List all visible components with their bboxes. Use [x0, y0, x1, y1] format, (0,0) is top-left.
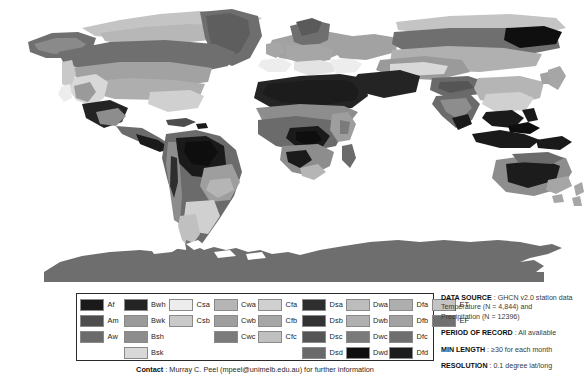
legend-label-dwd: Dwd: [373, 349, 388, 356]
contact-text: : Murray C. Peel (mpeel@unimelb.edu.au) …: [163, 365, 374, 374]
legend-label-dfa: Dfa: [417, 301, 429, 308]
legend-label-dsc: Dsc: [330, 333, 343, 340]
legend-swatch-dfc: [389, 331, 413, 343]
legend-swatch-dsa: [302, 299, 326, 311]
legend-swatch-dwd: [346, 347, 370, 359]
info-line: DATA SOURCE : GHCN v2.0 station data: [441, 294, 584, 303]
legend-label-cwc: Cwc: [241, 333, 256, 340]
legend-swatch-cfa: [258, 299, 282, 311]
legend-entry-csa[interactable]: Csa: [169, 297, 210, 313]
legend-column-continental-no-dry-season: DfaDfbDfcDfd: [389, 297, 428, 361]
legend-label-dsa: Dsa: [330, 301, 343, 308]
legend-entry-dfa[interactable]: Dfa: [389, 297, 428, 313]
legend-entry-cwb[interactable]: Cwb: [214, 313, 257, 329]
legend-swatch-csa: [169, 299, 193, 311]
legend-swatch-bwk: [124, 315, 148, 327]
legend-entry-cwc[interactable]: Cwc: [214, 329, 257, 345]
legend-label-dwc: Dwc: [373, 333, 388, 340]
legend-column-temperate-no-dry-season: CfaCfbCfc: [258, 297, 297, 345]
legend-label-bsh: Bsh: [151, 333, 164, 340]
legend-label-dsd: Dsd: [330, 349, 343, 356]
legend-entry-am[interactable]: Am: [80, 313, 119, 329]
legend-label-am: Am: [108, 317, 119, 324]
legend-entry-dwd[interactable]: Dwd: [346, 345, 389, 361]
legend-swatch-bsk: [124, 347, 148, 359]
world-map-panel: [0, 0, 584, 283]
legend-entry-dwa[interactable]: Dwa: [346, 297, 389, 313]
legend-entry-dsd[interactable]: Dsd: [302, 345, 343, 361]
info-block-min-length: MIN LENGTH : ≥30 for each month: [441, 346, 584, 355]
legend-label-dsb: Dsb: [330, 317, 343, 324]
legend-swatch-cfb: [258, 315, 282, 327]
metadata-info-panel: DATA SOURCE : GHCN v2.0 station dataTemp…: [441, 294, 584, 378]
legend-entry-bsk[interactable]: Bsk: [124, 345, 166, 361]
legend-entry-cwa[interactable]: Cwa: [214, 297, 257, 313]
legend-entry-cfc[interactable]: Cfc: [258, 329, 297, 345]
legend-entry-af[interactable]: Af: [80, 297, 119, 313]
legend-entry-cfb[interactable]: Cfb: [258, 313, 297, 329]
legend-column-temperate-dry-summer: CsaCsb: [169, 297, 210, 329]
legend-entry-cfa[interactable]: Cfa: [258, 297, 297, 313]
info-key: MIN LENGTH: [441, 346, 485, 354]
legend-entry-dfb[interactable]: Dfb: [389, 313, 428, 329]
legend-swatch-csb: [169, 315, 193, 327]
legend-label-cfc: Cfc: [286, 333, 297, 340]
info-key: DATA SOURCE: [441, 294, 492, 302]
legend-entry-dwc[interactable]: Dwc: [346, 329, 389, 345]
info-line: PERIOD OF RECORD : All available: [441, 329, 584, 338]
legend-label-dfb: Dfb: [417, 317, 429, 324]
legend-swatch-cfc: [258, 331, 282, 343]
legend-label-dwb: Dwb: [373, 317, 388, 324]
info-line: Precipitation (N = 12396): [441, 313, 584, 322]
legend-swatch-bsh: [124, 331, 148, 343]
info-block-period-of-record: PERIOD OF RECORD : All available: [441, 329, 584, 338]
legend-label-csb: Csb: [197, 317, 210, 324]
legend-swatch-am: [80, 315, 104, 327]
legend-swatch-dsc: [302, 331, 326, 343]
legend-label-cfb: Cfb: [286, 317, 298, 324]
legend-entry-bwk[interactable]: Bwk: [124, 313, 166, 329]
legend-column-temperate-dry-winter: CwaCwbCwc: [214, 297, 257, 345]
legend-swatch-dfb: [389, 315, 413, 327]
legend-entry-csb[interactable]: Csb: [169, 313, 210, 329]
info-key: PERIOD OF RECORD: [441, 329, 513, 337]
legend-swatch-cwa: [214, 299, 238, 311]
legend-swatch-dwb: [346, 315, 370, 327]
legend-entry-dfd[interactable]: Dfd: [389, 345, 428, 361]
legend-entry-dwb[interactable]: Dwb: [346, 313, 389, 329]
legend-label-bwk: Bwk: [151, 317, 165, 324]
legend-swatch-bwh: [124, 299, 148, 311]
legend-swatch-dfa: [389, 299, 413, 311]
legend-column-tropical: AfAmAw: [80, 297, 119, 345]
legend-swatch-dsb: [302, 315, 326, 327]
legend-entry-dfc[interactable]: Dfc: [389, 329, 428, 345]
legend-column-continental-dry-summer: DsaDsbDscDsd: [302, 297, 343, 361]
legend-entry-dsa[interactable]: Dsa: [302, 297, 343, 313]
legend-entry-aw[interactable]: Aw: [80, 329, 119, 345]
legend-column-continental-dry-winter: DwaDwbDwcDwd: [346, 297, 389, 361]
legend-label-aw: Aw: [108, 333, 118, 340]
world-map-svg: [0, 0, 584, 283]
legend-swatch-aw: [80, 331, 104, 343]
legend-entry-dsc[interactable]: Dsc: [302, 329, 343, 345]
info-key: RESOLUTION: [441, 362, 488, 370]
legend-label-bsk: Bsk: [151, 349, 164, 356]
legend-label-dfc: Dfc: [417, 333, 428, 340]
contact-label: Contact: [136, 365, 163, 374]
legend-label-cfa: Cfa: [286, 301, 298, 308]
info-block-resolution: RESOLUTION : 0.1 degree lat/long: [441, 362, 584, 371]
info-line: RESOLUTION : 0.1 degree lat/long: [441, 362, 584, 371]
legend-label-cwb: Cwb: [241, 317, 256, 324]
legend-entry-bwh[interactable]: Bwh: [124, 297, 166, 313]
legend-swatch-dfd: [389, 347, 413, 359]
legend-label-csa: Csa: [197, 301, 210, 308]
legend-swatch-dwc: [346, 331, 370, 343]
legend-label-cwa: Cwa: [241, 301, 256, 308]
legend-entry-dsb[interactable]: Dsb: [302, 313, 343, 329]
info-block-data-source: DATA SOURCE : GHCN v2.0 station dataTemp…: [441, 294, 584, 322]
legend-swatch-dsd: [302, 347, 326, 359]
legend-label-dwa: Dwa: [373, 301, 388, 308]
legend-swatch-dwa: [346, 299, 370, 311]
legend-swatch-cwc: [214, 331, 238, 343]
legend-entry-bsh[interactable]: Bsh: [124, 329, 166, 345]
